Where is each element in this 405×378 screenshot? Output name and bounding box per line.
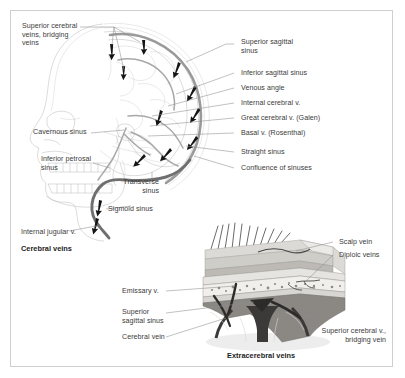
label-inferior-sagittal-sinus: Inferior sagittal sinus (241, 69, 341, 78)
superior-sagittal-sinus-vessel (110, 34, 201, 183)
label-superior-cerebral-vein-bridging-vein: Superior cerebral v., bridging vein (307, 327, 386, 344)
internal-jugular-vein-vessel (99, 226, 109, 238)
label-straight-sinus: Straight sinus (241, 148, 341, 157)
label-superior-sagittal-sinus-lower: Superior sagittal sinus (122, 308, 178, 325)
label-emissary-vein: Emissary v. (122, 287, 172, 296)
label-venous-angle: Venous angle (241, 84, 341, 93)
caption-cerebral-veins: Cerebral veins (21, 245, 72, 254)
label-cavernous-sinus: Cavernous sinus (33, 128, 93, 137)
label-confluence-of-sinuses: Confluence of sinuses (241, 164, 351, 173)
label-basal-vein-rosenthal: Basal v. (Rosenthal) (241, 129, 351, 138)
cerebral-veins-illustration (0, 0, 405, 378)
label-inferior-petrosal-sinus: Inferior petrosal sinus (41, 155, 97, 172)
label-internal-jugular-vein: Internal jugular v. (21, 228, 91, 237)
label-superior-sagittal-sinus: Superior sagittal sinus (241, 38, 321, 55)
label-scalp-vein: Scalp vein (339, 238, 397, 247)
label-diploic-veins: Diploic veins (339, 251, 397, 260)
caption-extracerebral-veins: Extracerebral veins (227, 352, 295, 361)
label-great-cerebral-vein-galen: Great cerebral v. (Galen) (241, 114, 356, 123)
leader-lines-right-upper (148, 44, 234, 168)
label-sigmoid-sinus: Sigmoid sinus (108, 205, 170, 214)
anatomy-figure: Superior cerebral veins, bridging veins … (0, 0, 405, 378)
label-cerebral-vein: Cerebral vein (122, 333, 178, 342)
cranial-vault (104, 23, 209, 190)
label-transverse-sinus: Transverse sinus (112, 178, 159, 195)
label-superior-cerebral-bridging-veins: Superior cerebral veins, bridging veins (22, 22, 92, 48)
label-internal-cerebral-vein: Internal cerebral v. (241, 99, 341, 108)
